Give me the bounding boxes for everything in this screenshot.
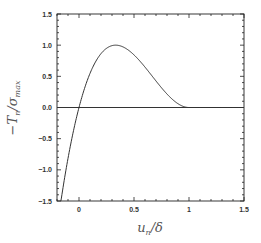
x-tick-label: 1.5 [239,206,249,213]
y-tick-label: 1.5 [42,11,52,18]
x-axis-label: un/δ [137,220,163,237]
x-tick-label: 1 [187,206,191,213]
y-tick-label: −1.5 [38,198,52,205]
x-tick-labels: 00.511.5 [77,206,249,213]
y-tick-label: 1.0 [42,42,52,49]
x-tick-label: 0.5 [129,206,139,213]
y-axis-label: −Tn/σmax [5,80,22,135]
y-tick-label: 0.0 [42,104,52,111]
y-tick-label: −0.5 [38,135,52,142]
chart: 00.511.5 −1.5−1.0−0.50.00.51.01.5 un/δ −… [0,0,261,243]
data-series [57,45,244,201]
y-tick-label: −1.0 [38,166,52,173]
traction-curve [61,45,244,201]
y-tick-labels: −1.5−1.0−0.50.00.51.01.5 [38,11,52,205]
x-tick-label: 0 [77,206,81,213]
y-tick-label: 0.5 [42,73,52,80]
